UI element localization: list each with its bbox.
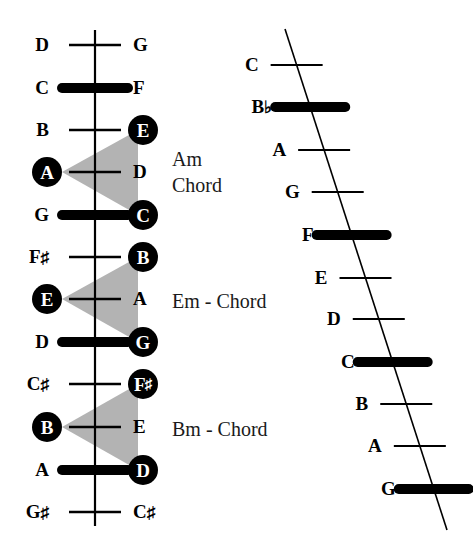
note-circle-left-b: B — [32, 412, 62, 442]
note-label-slanted-b-flat: B♭ — [234, 97, 272, 116]
note-circle-right-d: D — [128, 455, 158, 485]
note-label-left-d: D — [15, 35, 49, 54]
staff-lines-layer — [0, 0, 473, 550]
note-label-slanted-g: G — [262, 182, 300, 201]
note-label-right-g: G — [133, 35, 148, 54]
note-circle-right-fsharp: F♯ — [128, 369, 158, 399]
figure-canvas: DGCFBEADGCF♯BEADGC♯F♯BEADG♯C♯CB♭AGFEDCBA… — [0, 0, 473, 550]
note-label-left-b: B — [15, 120, 49, 139]
note-label-left-g: G — [15, 205, 49, 224]
note-label-slanted-c: C — [221, 55, 259, 74]
chord-caption-line: Bm - Chord — [172, 416, 268, 442]
note-label-left-c: C — [15, 78, 49, 97]
note-label-right-f: F — [133, 78, 145, 97]
note-circle-right-b: B — [128, 242, 158, 272]
note-label-left-a: A — [15, 460, 49, 479]
note-label-slanted-e: E — [290, 268, 328, 287]
note-circle-right-c: C — [128, 200, 158, 230]
chord-caption-line: Em - Chord — [172, 288, 266, 314]
note-label-slanted-f: F — [276, 225, 314, 244]
note-label-slanted-c: C — [317, 352, 355, 371]
note-label-slanted-b: B — [330, 394, 368, 413]
chord-caption-bm: Bm - Chord — [172, 416, 268, 442]
note-circle-right-e: E — [128, 115, 158, 145]
note-label-slanted-g: G — [358, 479, 396, 498]
note-label-left-gsharp: G♯ — [15, 502, 49, 521]
note-label-slanted-a: A — [344, 436, 382, 455]
note-label-right-d: D — [133, 162, 147, 181]
note-label-slanted-d: D — [303, 309, 341, 328]
chord-caption-line: Chord — [172, 172, 222, 198]
note-label-slanted-a: A — [248, 140, 286, 159]
note-label-left-fsharp: F♯ — [15, 247, 49, 266]
note-label-right-csharp: C♯ — [133, 502, 155, 521]
note-circle-left-a: A — [32, 157, 62, 187]
note-label-left-d: D — [15, 332, 49, 351]
note-circle-right-g: G — [128, 327, 158, 357]
note-circle-left-e: E — [32, 284, 62, 314]
note-label-right-a: A — [133, 289, 147, 308]
chord-caption-em: Em - Chord — [172, 288, 266, 314]
chord-caption-line: Am — [172, 146, 222, 172]
note-label-left-csharp: C♯ — [15, 374, 49, 393]
note-label-right-e: E — [133, 417, 146, 436]
chord-caption-am: AmChord — [172, 146, 222, 199]
